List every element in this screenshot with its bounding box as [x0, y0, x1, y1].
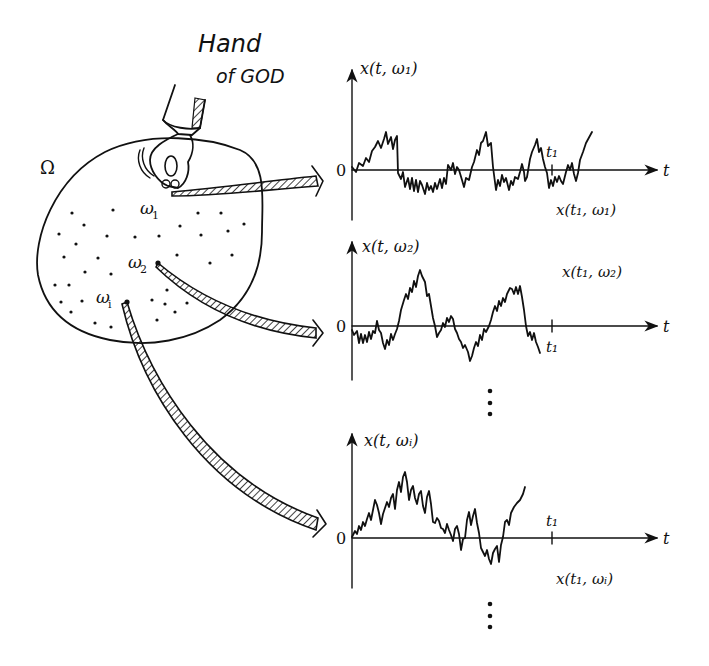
plot3-y-label: x(t, ωᵢ)	[364, 431, 418, 450]
plot3-value-label: x(t₁, ωᵢ)	[556, 570, 613, 588]
plot2-sample-path	[352, 270, 540, 361]
plot3-sample-path	[352, 472, 525, 564]
hand-illustration	[138, 85, 205, 188]
omega-1-point: ω 1	[140, 198, 159, 222]
plot1-x-label: t	[663, 161, 670, 180]
plot2-t1-label: t₁	[546, 338, 558, 356]
sample-path-plot-2: x(t, ω₂) 0 t t₁ x(t₁, ω₂)	[336, 237, 670, 380]
omega-2-subscript: 2	[140, 263, 147, 276]
plot3-origin-label: 0	[336, 529, 346, 548]
caption-line1: Hand	[198, 30, 262, 58]
plot3-x-label: t	[663, 529, 670, 548]
omega-i-subscript: i	[108, 298, 112, 311]
plot2-x-label: t	[663, 317, 670, 336]
sample-path-plot-i: x(t, ωᵢ) 0 t t₁ x(t₁, ωᵢ)	[336, 431, 670, 588]
omega-space-label: Ω	[40, 157, 55, 178]
plot2-value-label: x(t₁, ω₂)	[562, 263, 622, 281]
plot3-t1-label: t₁	[546, 512, 558, 530]
plot1-sample-path	[352, 132, 592, 194]
caption-line2: of GOD	[216, 65, 285, 87]
plot1-origin-label: 0	[336, 161, 346, 180]
hand-of-god-caption: Hand of GOD	[198, 30, 285, 87]
ellipsis-dots-bottom	[488, 602, 493, 630]
sample-path-plot-1: x(t, ω₁) 0 t t₁ x(t₁, ω₁)	[336, 59, 670, 220]
mapping-arrow-omegai	[122, 302, 326, 537]
omega-2-point: ω 2	[128, 252, 161, 276]
plot1-t1-label: t₁	[546, 143, 558, 161]
omega-1-subscript: 1	[152, 209, 159, 222]
mapping-arrow-omega2	[156, 263, 323, 346]
plot1-value-label: x(t₁, ω₁)	[556, 201, 616, 219]
plot1-y-label: x(t, ω₁)	[360, 59, 418, 78]
mapping-arrow-omega1	[172, 166, 323, 196]
plot2-origin-label: 0	[336, 317, 346, 336]
stochastic-process-diagram: Hand of GOD Ω	[0, 0, 709, 666]
plot2-y-label: x(t, ω₂)	[362, 237, 420, 256]
ellipsis-dots-middle	[488, 389, 493, 417]
